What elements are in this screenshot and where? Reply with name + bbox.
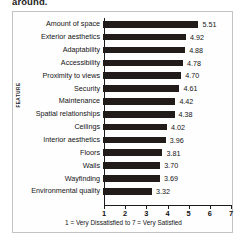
bar-chart: FEATURE Amount of space5.51Exterior aest… [13,12,234,234]
bar-track: 4.88 [103,44,234,57]
axis-tick-label: 7 [229,209,233,218]
bar [103,85,179,92]
bar-category-label: Walls [13,162,103,170]
bar-row: Spatial relationships4.38 [13,108,234,121]
category-axis-line [104,18,105,206]
bar-row: Environmental quality3.32 [13,185,234,198]
bar [103,34,186,41]
x-axis-caption: 1 = Very Dissatisfied to 7 = Very Satisf… [13,219,234,227]
bar-value-label: 4.88 [189,46,203,55]
bar [103,21,198,28]
bar-category-label: Wayfinding [13,175,103,183]
bar-track: 3.32 [103,185,234,198]
bar [103,175,160,182]
bar-track: 4.42 [103,95,234,108]
bar [103,72,181,79]
bar-track: 4.70 [103,69,234,82]
bar-rows: Amount of space5.51Exterior aesthetics4.… [13,18,234,198]
bar-track: 3.81 [103,146,234,159]
bar [103,149,162,156]
bar [103,124,167,131]
bar [103,111,175,118]
axis-tick-label: 5 [187,209,191,218]
bar-track: 4.92 [103,31,234,44]
bar [103,98,175,105]
bar-track: 3.96 [103,134,234,147]
bar [103,188,152,195]
bar-value-label: 3.96 [170,136,184,145]
bar-value-label: 3.70 [164,161,178,170]
bar-category-label: Accessibility [13,59,103,67]
bar-value-label: 3.69 [164,174,178,183]
bar [103,47,185,54]
bar-track: 5.51 [103,18,234,31]
bar-category-label: Exterior aesthetics [13,33,103,41]
bar-track: 4.38 [103,108,234,121]
bar-category-label: Interior aesthetics [13,136,103,144]
bar-track: 4.02 [103,121,234,134]
bar-row: Amount of space5.51 [13,18,234,31]
axis-tick-label: 1 [102,209,106,218]
bar-value-label: 4.70 [185,71,199,80]
bar-track: 4.61 [103,82,234,95]
axis-tick-label: 6 [208,209,212,218]
bar-track: 4.78 [103,57,234,70]
bar-value-label: 4.61 [183,84,197,93]
bar-value-label: 3.32 [156,187,170,196]
bar-value-label: 4.78 [187,59,201,68]
bar-category-label: Spatial relationships [13,110,103,118]
bar-row: Security4.61 [13,82,234,95]
bar-row: Walls3.70 [13,159,234,172]
bar [103,137,166,144]
bar-track: 3.70 [103,159,234,172]
bar-row: Ceilings4.02 [13,121,234,134]
bar-row: Wayfinding3.69 [13,172,234,185]
bar-category-label: Proximity to views [13,72,103,80]
bar [103,60,183,67]
axis-tick-label: 3 [144,209,148,218]
bar-track: 3.69 [103,172,234,185]
bar-row: Proximity to views4.70 [13,69,234,82]
bar-row: Exterior aesthetics4.92 [13,31,234,44]
bar-category-label: Amount of space [13,20,103,28]
bar-value-label: 4.38 [179,110,193,119]
figure-frame: FEATURE Amount of space5.51Exterior aest… [12,11,233,233]
axis-tick-label: 4 [165,209,169,218]
bar-category-label: Adaptability [13,46,103,54]
bar-value-label: 4.02 [171,123,185,132]
bar-category-label: Ceilings [13,123,103,131]
clipped-document-text: around. [12,0,232,8]
clipped-document-text-line: around. [12,0,232,7]
bar-category-label: Maintenance [13,97,103,105]
bar-category-label: Environmental quality [13,187,103,195]
bar-row: Maintenance4.42 [13,95,234,108]
bar-row: Floors3.81 [13,146,234,159]
bar-row: Adaptability4.88 [13,44,234,57]
bar-value-label: 3.81 [166,149,180,158]
axis-tick-label: 2 [123,209,127,218]
bar-value-label: 5.51 [202,20,216,29]
bar-category-label: Security [13,85,103,93]
bar-category-label: Floors [13,149,103,157]
bar-row: Accessibility4.78 [13,57,234,70]
bar-value-label: 4.42 [179,97,193,106]
bar-row: Interior aesthetics3.96 [13,134,234,147]
bar [103,162,160,169]
bar-value-label: 4.92 [190,33,204,42]
